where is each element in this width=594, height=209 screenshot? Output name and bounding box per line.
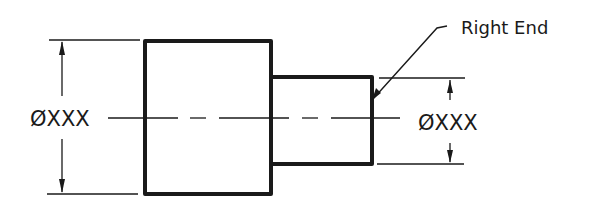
small-cylinder-outline <box>271 77 372 164</box>
leader-note-label: Right End <box>461 17 548 38</box>
technical-drawing: ØXXX ØXXX Right End <box>0 0 594 209</box>
right-diameter-label: ØXXX <box>418 111 478 135</box>
left-diameter-label: ØXXX <box>30 107 90 131</box>
arrowhead-down-icon <box>447 150 453 163</box>
arrowhead-down-icon <box>59 179 65 193</box>
arrowhead-up-icon <box>447 80 453 93</box>
leader-line <box>372 26 447 100</box>
arrowhead-up-icon <box>59 41 65 55</box>
